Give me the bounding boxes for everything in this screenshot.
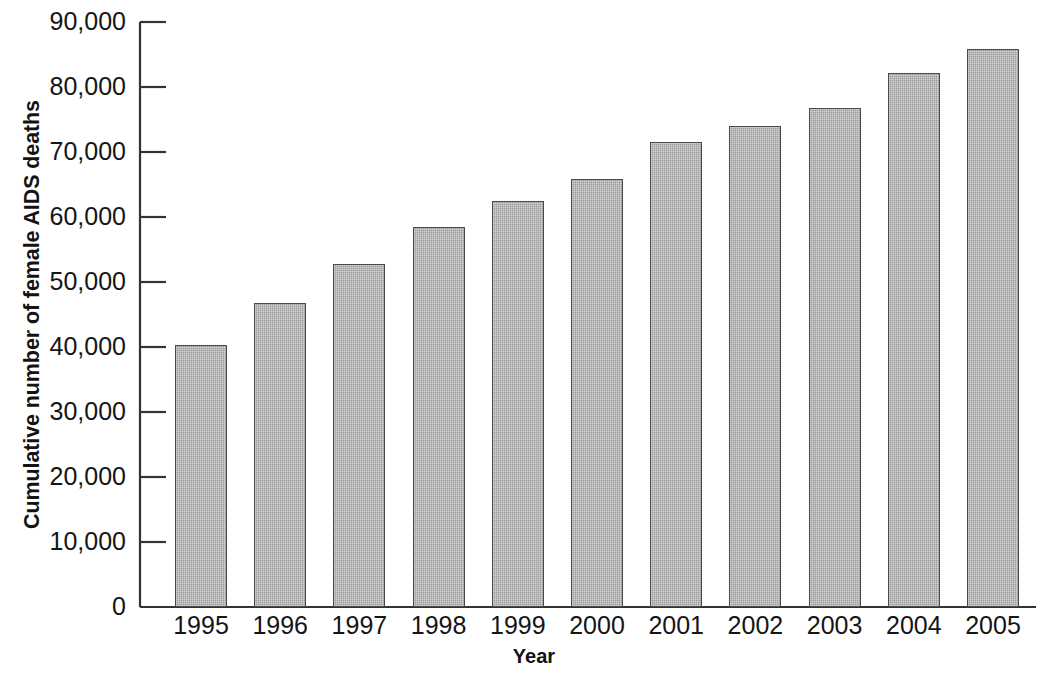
x-tick-label: 2002 <box>710 613 800 638</box>
bar-chart: Cumulative number of female AIDS deaths … <box>0 0 1044 674</box>
y-tick-label: 50,000 <box>8 269 126 294</box>
bar <box>967 49 1019 607</box>
bar <box>650 142 702 607</box>
bar <box>729 126 781 607</box>
bar <box>809 108 861 607</box>
x-tick-label: 2000 <box>552 613 642 638</box>
bar <box>413 227 465 607</box>
x-tick-label: 2005 <box>948 613 1038 638</box>
y-tick-label: 0 <box>8 594 126 619</box>
y-tick-label: 90,000 <box>8 9 126 34</box>
bar <box>492 201 544 607</box>
y-tick-label: 60,000 <box>8 204 126 229</box>
x-axis-title-text: Year <box>513 645 555 668</box>
y-tick-label: 40,000 <box>8 334 126 359</box>
bar <box>571 179 623 607</box>
bar <box>254 303 306 607</box>
bar <box>175 345 227 607</box>
x-tick-label: 1997 <box>314 613 404 638</box>
x-tick-label: 2004 <box>869 613 959 638</box>
y-tick-label: 30,000 <box>8 399 126 424</box>
y-tick-label: 80,000 <box>8 74 126 99</box>
bar <box>333 264 385 607</box>
y-tick-label: 20,000 <box>8 464 126 489</box>
x-tick-label: 1996 <box>235 613 325 638</box>
x-axis-title: Year <box>0 645 1044 668</box>
plot-area: 010,00020,00030,00040,00050,00060,00070,… <box>0 0 1044 674</box>
y-tick-label: 10,000 <box>8 529 126 554</box>
x-tick-label: 1995 <box>156 613 246 638</box>
y-tick-label: 70,000 <box>8 139 126 164</box>
x-tick-label: 2001 <box>631 613 721 638</box>
x-tick-label: 1998 <box>394 613 484 638</box>
x-tick-label: 1999 <box>473 613 563 638</box>
x-tick-label: 2003 <box>790 613 880 638</box>
bar <box>888 73 940 607</box>
